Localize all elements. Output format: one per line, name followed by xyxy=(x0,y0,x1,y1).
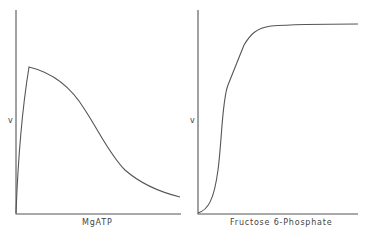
left-plot: v MgATP xyxy=(0,0,186,234)
left-axes xyxy=(16,10,181,214)
left-curve xyxy=(16,67,180,213)
right-curve xyxy=(198,24,358,213)
left-y-label: v xyxy=(8,116,13,125)
left-plot-svg xyxy=(0,0,186,234)
right-y-label: v xyxy=(190,116,195,125)
right-plot: v Fructose 6-Phosphate xyxy=(186,0,373,234)
right-axes xyxy=(198,10,358,214)
right-plot-svg xyxy=(186,0,373,234)
left-x-label: MgATP xyxy=(82,218,113,227)
right-x-label: Fructose 6-Phosphate xyxy=(230,218,332,227)
